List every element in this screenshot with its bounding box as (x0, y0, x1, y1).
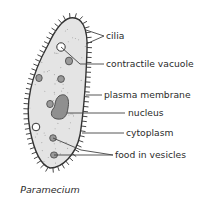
diagram-caption: Paramecium (20, 184, 80, 195)
label-cytoplasm: cytoplasm (126, 127, 174, 138)
contractile-vacuole-bottom (32, 123, 40, 131)
label-cilia: cilia (106, 30, 124, 41)
food-vesicle (47, 100, 54, 107)
label-plasma-membrane: plasma membrane (104, 89, 191, 100)
paramecium-diagram: cilia contractile vacuole plasma membran… (0, 0, 200, 201)
label-food-in-vesicles: food in vesicles (115, 149, 186, 160)
food-vesicle (65, 57, 72, 65)
label-contractile-vacuole: contractile vacuole (106, 58, 194, 69)
food-vesicle (58, 76, 65, 83)
food-vesicle (36, 74, 42, 81)
label-nucleus: nucleus (128, 107, 164, 118)
